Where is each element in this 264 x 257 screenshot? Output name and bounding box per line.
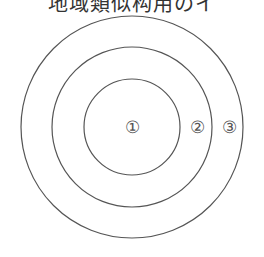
label-3: ③ — [222, 117, 237, 137]
concentric-circles-diagram: ① ② ③ — [0, 0, 264, 257]
label-1: ① — [125, 117, 140, 137]
label-2: ② — [190, 117, 205, 137]
